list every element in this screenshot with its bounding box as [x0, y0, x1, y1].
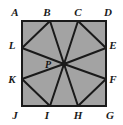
vertex-label-g: G — [106, 110, 114, 121]
figure-canvas — [0, 0, 123, 125]
vertex-label-e: E — [109, 40, 116, 51]
geometry-figure: A B C D E F G H I J K L P — [0, 0, 123, 125]
vertex-label-i: I — [45, 110, 49, 121]
vertex-label-f: F — [109, 74, 116, 85]
center-point-p-dot — [62, 62, 67, 67]
vertex-label-h: H — [74, 110, 83, 121]
vertex-label-a: A — [11, 7, 18, 18]
vertex-label-l: L — [9, 40, 16, 51]
vertex-label-d: D — [104, 7, 112, 18]
center-point-label-p: P — [45, 59, 51, 70]
vertex-label-b: B — [43, 7, 50, 18]
vertex-label-c: C — [74, 7, 81, 18]
vertex-label-j: J — [12, 110, 18, 121]
vertex-label-k: K — [8, 74, 15, 85]
